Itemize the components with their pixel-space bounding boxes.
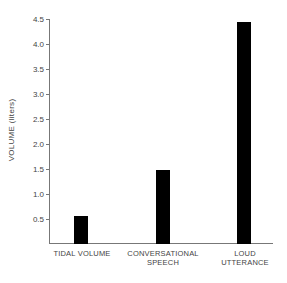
x-label-loud-utterance: LOUD UTTERANCE xyxy=(221,249,269,267)
y-tick-label: 4.0 xyxy=(33,40,44,49)
bar-chart: VOLUME (liters) 0.5 1.0 1.5 2.0 2.5 3.0 … xyxy=(0,0,287,283)
y-tick-label: 1.5 xyxy=(33,165,44,174)
bar-conversational-speech xyxy=(156,170,170,244)
y-tick-label: 3.0 xyxy=(33,90,44,99)
y-axis-line xyxy=(49,19,50,244)
x-label-conversational-speech: CONVERSATIONAL SPEECH xyxy=(127,249,198,267)
y-tick-label: 2.0 xyxy=(33,140,44,149)
y-tick xyxy=(46,169,49,170)
y-tick xyxy=(46,194,49,195)
y-tick-label: 3.5 xyxy=(33,65,44,74)
y-tick-label: 1.0 xyxy=(33,190,44,199)
y-axis-label: VOLUME (liters) xyxy=(7,99,16,162)
x-label-tidal-volume: TIDAL VOLUME xyxy=(53,249,110,258)
bar-loud-utterance xyxy=(237,22,251,244)
y-tick xyxy=(46,19,49,20)
y-tick-label: 2.5 xyxy=(33,115,44,124)
y-tick xyxy=(46,219,49,220)
y-tick-label: 0.5 xyxy=(33,215,44,224)
y-tick xyxy=(46,94,49,95)
y-tick xyxy=(46,69,49,70)
y-tick xyxy=(46,144,49,145)
y-tick xyxy=(46,44,49,45)
bar-tidal-volume xyxy=(74,216,88,244)
y-tick xyxy=(46,119,49,120)
y-tick-label: 4.5 xyxy=(33,15,44,24)
